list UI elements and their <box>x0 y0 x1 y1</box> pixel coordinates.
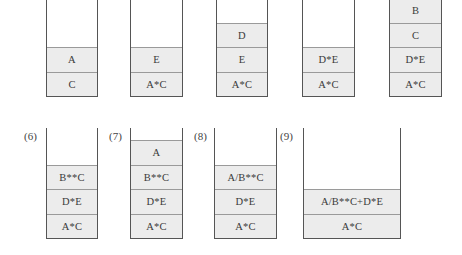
stack-cell: A*C <box>131 214 182 239</box>
step-label-9: (9) <box>280 130 293 142</box>
stack-cell: A*C <box>215 214 276 239</box>
stack-cell: E <box>131 47 182 72</box>
stack-5: A*C D*E C B <box>389 0 442 97</box>
stack-cell: D <box>217 23 267 48</box>
step-label-6: (6) <box>24 130 37 142</box>
stack-cell: A*C <box>131 72 182 97</box>
stack-cell: A/B**C+D*E <box>304 189 400 214</box>
stack-4: A*C D*E <box>302 0 355 97</box>
stack-cell: A <box>131 140 182 165</box>
stack-cell: C <box>390 23 441 48</box>
stack-6: A*C D*E B**C <box>46 128 98 239</box>
stack-cell: B <box>390 0 441 23</box>
stack-cell: A*C <box>47 214 97 239</box>
step-label-7: (7) <box>109 130 122 142</box>
stack-cell: D*E <box>215 189 276 214</box>
stack-3: A*C E D <box>216 0 268 97</box>
stack-2: A*C E <box>130 0 183 97</box>
stack-cell: A <box>47 47 97 72</box>
stack-cell: A*C <box>304 214 400 239</box>
stack-7: A*C D*E B**C A <box>130 128 183 239</box>
step-label-8: (8) <box>194 130 207 142</box>
stack-9: A*C A/B**C+D*E <box>303 128 401 239</box>
stack-cell: D*E <box>131 189 182 214</box>
stack-cell: A*C <box>217 72 267 97</box>
stack-cell: D*E <box>47 189 97 214</box>
stack-1: C A <box>46 0 98 97</box>
stack-cell: C <box>47 72 97 97</box>
stack-8: A*C D*E A/B**C <box>214 128 277 239</box>
stack-cell: D*E <box>390 47 441 72</box>
stack-cell: A*C <box>303 72 354 97</box>
stack-cell: B**C <box>131 165 182 190</box>
stack-cell: E <box>217 47 267 72</box>
stack-cell: A*C <box>390 72 441 97</box>
stack-cell: B**C <box>47 165 97 190</box>
stack-cell: D*E <box>303 47 354 72</box>
stack-cell: A/B**C <box>215 165 276 190</box>
